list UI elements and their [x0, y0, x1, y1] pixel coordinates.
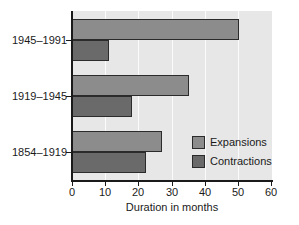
chart-legend: Expansions Contractions [192, 133, 270, 171]
bar-contractions-1854-1919 [72, 152, 146, 173]
x-tick-label-0: 0 [57, 186, 87, 199]
legend-label-contractions: Contractions [210, 155, 272, 168]
y-axis-line [71, 11, 73, 182]
y-tick-label-1945-1991: 1945–1991 [12, 34, 67, 47]
plot-area: Expansions Contractions [72, 11, 272, 180]
x-tick-label-20: 20 [123, 186, 153, 199]
bar-chart: Expansions Contractions 0 10 20 30 40 50… [0, 0, 299, 225]
x-tick-label-10: 10 [90, 186, 120, 199]
x-axis-title: Duration in months [72, 201, 272, 214]
legend-swatch-contractions-icon [192, 155, 205, 168]
y-tick-label-1854-1919: 1854–1919 [12, 146, 67, 159]
legend-item-expansions: Expansions [192, 133, 270, 152]
legend-label-expansions: Expansions [210, 136, 267, 149]
bar-contractions-1945-1991 [72, 40, 109, 61]
x-tick-label-50: 50 [223, 186, 253, 199]
y-tick-label-1919-1945: 1919–1945 [12, 90, 67, 103]
x-tick-label-40: 40 [190, 186, 220, 199]
bar-expansions-1945-1991 [72, 19, 239, 40]
legend-swatch-expansions-icon [192, 136, 205, 149]
legend-item-contractions: Contractions [192, 152, 270, 171]
x-tick-label-30: 30 [157, 186, 187, 199]
bar-expansions-1919-1945 [72, 75, 189, 96]
bar-expansions-1854-1919 [72, 131, 162, 152]
x-tick-label-60: 60 [256, 186, 286, 199]
bar-contractions-1919-1945 [72, 96, 132, 117]
